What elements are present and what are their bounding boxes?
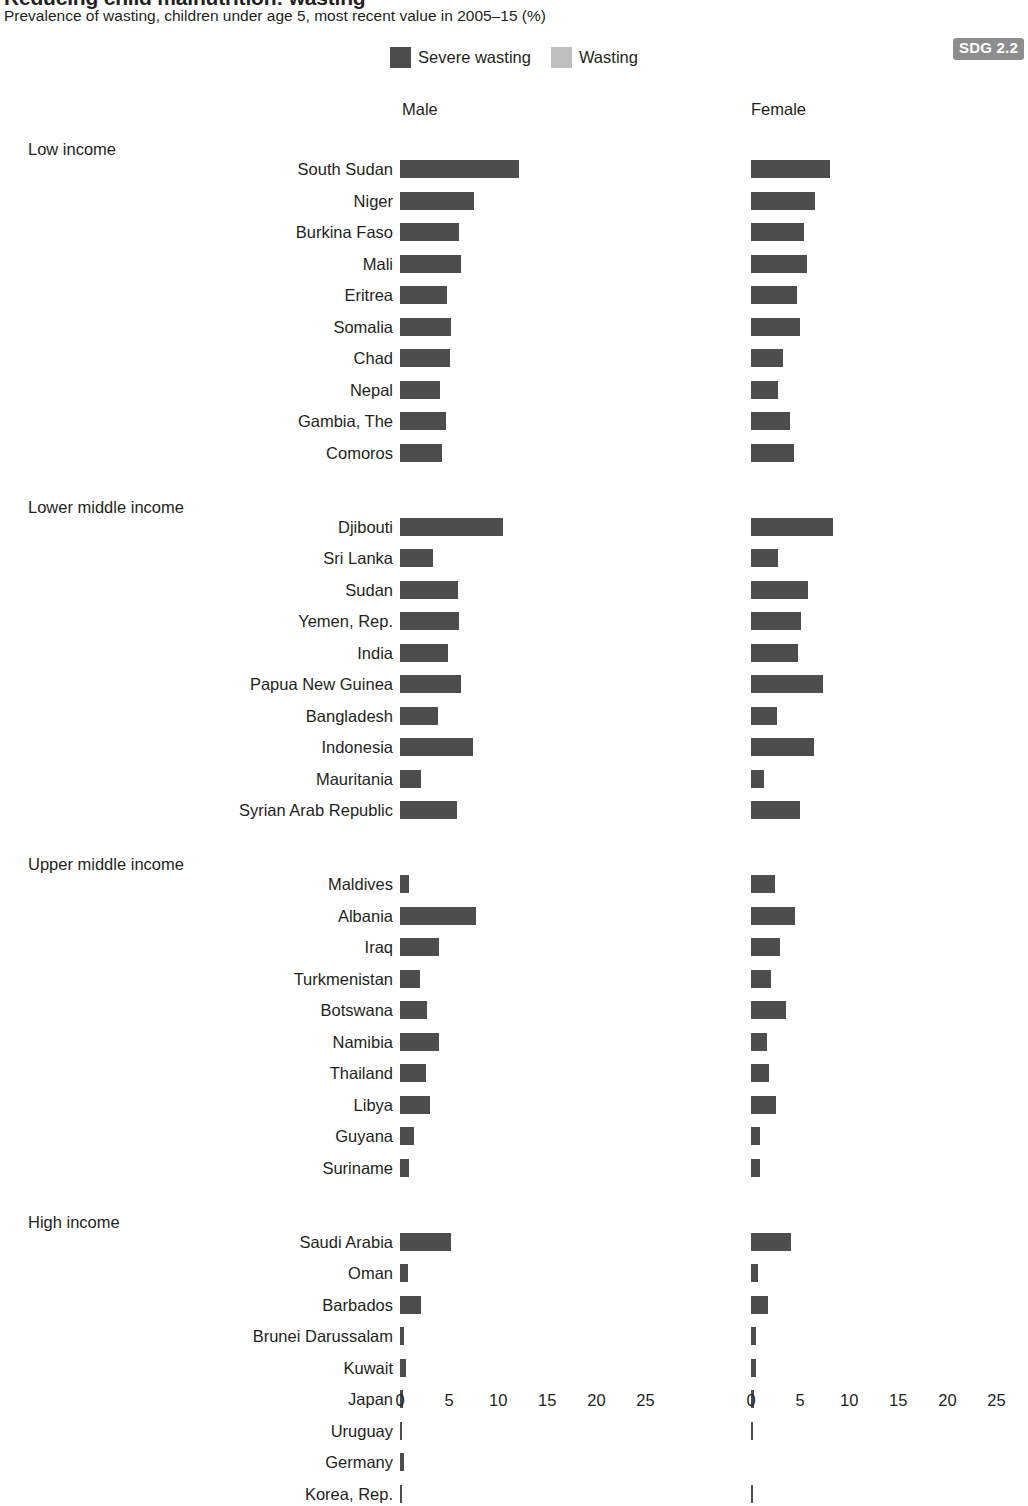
bar-severe-wasting-female <box>751 1485 753 1503</box>
chart-row: Maldives <box>0 872 1028 896</box>
bar-severe-wasting-female <box>751 644 798 662</box>
bar-group-female <box>751 1419 759 1443</box>
bar-group-male <box>400 967 474 991</box>
bar-group-male <box>400 1419 412 1443</box>
bar-group-female <box>751 767 853 791</box>
row-label-country: Indonesia <box>0 735 393 759</box>
row-label-country: Syrian Arab Republic <box>0 798 393 822</box>
bar-severe-wasting-male <box>400 412 446 430</box>
chart-row: Eritrea <box>0 283 1028 307</box>
bar-group-female <box>751 1093 810 1117</box>
chart-row: Namibia <box>0 1030 1028 1054</box>
bar-severe-wasting-female <box>751 581 808 599</box>
x-axis-tick-label: 20 <box>930 1391 964 1410</box>
bar-group-female <box>751 441 856 465</box>
row-label-country: Suriname <box>0 1156 393 1180</box>
x-axis-tick-label: 5 <box>783 1391 817 1410</box>
x-axis-tick-label: 15 <box>530 1391 564 1410</box>
bar-severe-wasting-male <box>400 1485 402 1503</box>
bar-group-female <box>751 1356 769 1380</box>
bar-group-female <box>751 704 889 728</box>
bar-severe-wasting-male <box>400 1033 439 1051</box>
bar-group-male <box>400 157 657 181</box>
row-label-country: Somalia <box>0 315 393 339</box>
bar-group-male <box>400 189 597 213</box>
bar-severe-wasting-female <box>751 1233 791 1251</box>
bar-group-male <box>400 346 544 370</box>
bar-group-female <box>751 1230 856 1254</box>
chart-row: Mauritania <box>0 767 1028 791</box>
chart-row: Burkina Faso <box>0 220 1028 244</box>
bar-severe-wasting-male <box>400 318 451 336</box>
bar-group-female <box>751 998 819 1022</box>
row-label-country: Papua New Guinea <box>0 672 393 696</box>
chart-row: Indonesia <box>0 735 1028 759</box>
bar-group-male <box>400 872 532 896</box>
row-label-country: Iraq <box>0 935 393 959</box>
bar-severe-wasting-male <box>400 675 461 693</box>
chart-row: Korea, Rep. <box>0 1482 1028 1506</box>
bar-severe-wasting-male <box>400 1422 402 1440</box>
row-label-country: Djibouti <box>0 515 393 539</box>
bar-group-female <box>751 1261 810 1285</box>
bar-severe-wasting-female <box>751 970 771 988</box>
bar-group-male <box>400 283 560 307</box>
bar-severe-wasting-male <box>400 381 440 399</box>
bar-group-female <box>751 346 867 370</box>
row-label-country: Korea, Rep. <box>0 1482 393 1506</box>
bar-severe-wasting-female <box>751 1327 756 1345</box>
chart-row: Guyana <box>0 1124 1028 1148</box>
x-axis-tick-label: 15 <box>881 1391 915 1410</box>
bar-severe-wasting-female <box>751 444 794 462</box>
bar-group-male <box>400 1356 426 1380</box>
bar-severe-wasting-male <box>400 707 438 725</box>
chart-row: Sudan <box>0 578 1028 602</box>
row-label-country: Uruguay <box>0 1419 393 1443</box>
bar-severe-wasting-male <box>400 770 421 788</box>
row-label-country: Gambia, The <box>0 409 393 433</box>
bar-severe-wasting-male <box>400 875 409 893</box>
bar-severe-wasting-female <box>751 1033 767 1051</box>
bar-group-male <box>400 1230 529 1254</box>
row-label-country: Comoros <box>0 441 393 465</box>
bar-severe-wasting-male <box>400 907 476 925</box>
bar-severe-wasting-male <box>400 192 474 210</box>
row-label-country: Yemen, Rep. <box>0 609 393 633</box>
chart-row: Mali <box>0 252 1028 276</box>
bar-group-female <box>751 1124 792 1148</box>
bar-severe-wasting-male <box>400 612 459 630</box>
bar-severe-wasting-male <box>400 738 473 756</box>
chart-row: Oman <box>0 1261 1028 1285</box>
bar-group-female <box>751 1030 804 1054</box>
row-label-country: Chad <box>0 346 393 370</box>
chart-row: Syrian Arab Republic <box>0 798 1028 822</box>
bar-severe-wasting-female <box>751 675 823 693</box>
bar-severe-wasting-male <box>400 581 458 599</box>
bar-group-male <box>400 704 549 728</box>
bar-group-male <box>400 1156 456 1180</box>
chart-row: Saudi Arabia <box>0 1230 1028 1254</box>
row-label-country: Mauritania <box>0 767 393 791</box>
bar-group-female <box>751 578 889 602</box>
row-label-country: Maldives <box>0 872 393 896</box>
bar-severe-wasting-male <box>400 1127 414 1145</box>
bar-group-male <box>400 935 481 959</box>
bar-severe-wasting-male <box>400 1159 409 1177</box>
bar-group-female <box>751 967 823 991</box>
chart-row: Turkmenistan <box>0 967 1028 991</box>
bar-group-male <box>400 441 513 465</box>
bar-group-female <box>751 220 896 244</box>
bar-group-male <box>400 1093 467 1117</box>
bar-severe-wasting-male <box>400 1264 408 1282</box>
chart-row: Brunei Darussalam <box>0 1324 1028 1348</box>
bar-group-female <box>751 252 894 276</box>
bar-group-female <box>751 157 947 181</box>
bar-severe-wasting-female <box>751 1096 776 1114</box>
chart-row: Nepal <box>0 378 1028 402</box>
row-label-country: South Sudan <box>0 157 393 181</box>
bar-group-male <box>400 315 559 339</box>
bar-group-male <box>400 1061 472 1085</box>
bar-severe-wasting-female <box>751 381 778 399</box>
row-label-country: Guyana <box>0 1124 393 1148</box>
